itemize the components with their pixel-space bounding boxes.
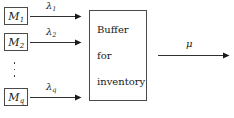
rate-label-mu: μ (186, 39, 193, 49)
rate-label-lambda-2: λ2 (46, 27, 56, 37)
rate-label-lambda-1: λ1 (46, 1, 56, 11)
diagram-canvas: M1 M2 Mq λ1 λ2 λq Buffer fo (0, 0, 234, 118)
buffer-text-line-3: inventory (97, 77, 145, 87)
machine-box-2-label: M2 (8, 37, 24, 48)
arrow-machine-1-to-buffer (30, 12, 82, 21)
ellipsis-dot (14, 75, 16, 77)
machine-box-q: Mq (4, 88, 28, 106)
ellipsis-dot (14, 62, 16, 64)
arrow-buffer-output (158, 51, 230, 60)
arrow-machine-2-to-buffer (30, 38, 82, 47)
inventory-buffer-box: Buffer for inventory (89, 10, 147, 101)
arrow-machine-q-to-buffer (30, 93, 82, 102)
machine-box-1: M1 (4, 7, 28, 25)
machine-box-q-label: Mq (8, 92, 24, 103)
machine-box-1-label: M1 (8, 11, 24, 22)
ellipsis-dot (14, 69, 16, 71)
machine-box-2: M2 (4, 33, 28, 51)
buffer-text-line-2: for (97, 51, 112, 61)
vertical-ellipsis-icon (12, 62, 17, 77)
rate-label-lambda-q: λq (46, 82, 57, 92)
buffer-text-line-1: Buffer (97, 25, 129, 35)
